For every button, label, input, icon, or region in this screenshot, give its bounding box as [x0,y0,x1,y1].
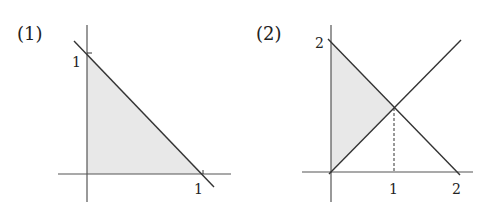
figure-1-label: (1) [17,23,43,44]
figures: (1) 1 1 (2) 2 1 2 [0,0,480,209]
x-tick-label-2: 2 [452,181,461,197]
x-tick-label-1: 1 [194,181,203,197]
figure-2: (2) 2 1 2 [256,23,473,202]
shaded-region-1 [87,53,203,174]
y-tick-label-1: 1 [72,54,81,70]
figure-1: (1) 1 1 [17,23,231,202]
x-tick-label-1: 1 [389,181,398,197]
shaded-region-2 [331,42,394,172]
y-tick-label-2: 2 [315,35,324,51]
figure-2-label: (2) [256,23,282,44]
